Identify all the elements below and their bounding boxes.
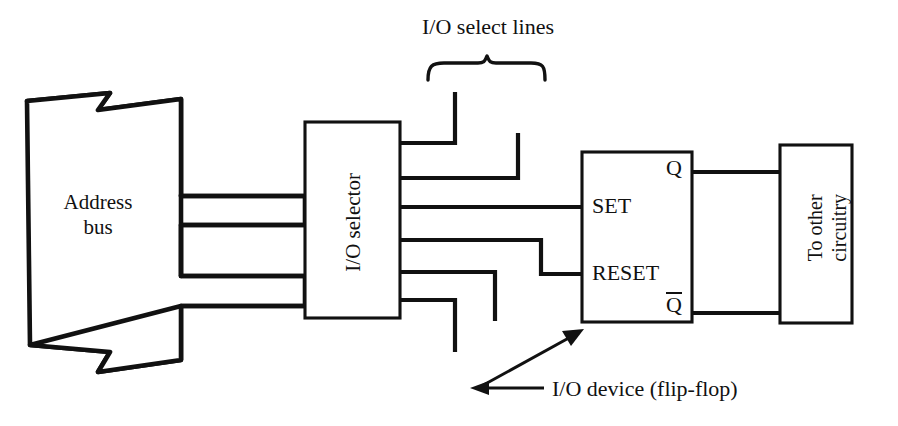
q-pin-label: Q xyxy=(666,155,682,181)
callout-arrowhead xyxy=(562,329,584,346)
select-line-5 xyxy=(400,272,495,321)
io-selector-label: I/O selector xyxy=(341,152,366,292)
other-circuitry-label-line1: To other xyxy=(804,163,828,293)
select-lines-brace xyxy=(428,56,545,80)
select-line-4-to-reset xyxy=(400,240,582,274)
address-bus-label-line1: Address xyxy=(38,190,158,215)
set-pin-label: SET xyxy=(592,193,631,219)
callout-tail-tip xyxy=(470,381,489,395)
select-line-6 xyxy=(400,300,455,352)
qnot-pin-label: Q xyxy=(666,292,682,318)
address-bus-label-line2: bus xyxy=(38,215,158,240)
flip-flop-callout-label: I/O device (flip-flop) xyxy=(552,376,738,402)
diagram-canvas: I/O select lines Address bus I/O selecto… xyxy=(0,0,898,426)
reset-pin-label: RESET xyxy=(592,260,659,286)
select-line-1 xyxy=(400,92,455,143)
qnot-pin-text: Q xyxy=(666,292,682,316)
select-lines-label: I/O select lines xyxy=(403,14,573,40)
other-circuitry-label-line2: circuitry xyxy=(828,163,852,293)
select-line-2 xyxy=(400,133,518,178)
